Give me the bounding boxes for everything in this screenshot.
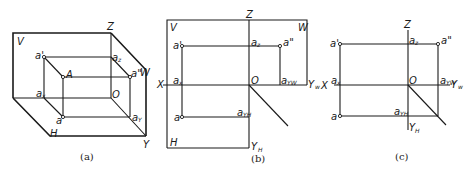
45-degree-line <box>408 85 446 125</box>
caption-c: (c) <box>395 151 409 162</box>
label-A: A <box>65 69 73 80</box>
label-a-z-sub: z <box>117 56 122 63</box>
label-a-dprime: a" <box>283 37 294 48</box>
projection-diagrams: V Z W Y H A O a' a z a" a x a a Y (a) <box>0 0 468 171</box>
point-a-dprime <box>436 42 439 45</box>
label-z: Z <box>245 9 254 20</box>
label-o: O <box>409 75 417 86</box>
caption-b: (b) <box>251 153 265 164</box>
label-a-y-sub: Y <box>138 116 143 123</box>
label-a-x-sub: x <box>41 92 46 99</box>
label-a-yh-sub: YH <box>243 111 252 118</box>
point-a-dprime <box>278 44 281 47</box>
caption-a: (a) <box>80 151 94 162</box>
figure-a: V Z W Y H A O a' a z a" a x a a Y (a) <box>13 21 151 162</box>
label-y-w-sub: w <box>458 83 463 90</box>
label-a: a <box>331 111 337 122</box>
label-a: a <box>56 115 62 126</box>
label-a-dprime: a" <box>441 35 452 46</box>
label-a-yw-sub: YW <box>446 79 457 86</box>
label-z: Z <box>403 19 412 30</box>
label-a-z-sub: z <box>256 41 261 48</box>
label-a-z-sub: z <box>414 39 419 46</box>
label-w: W <box>298 22 309 33</box>
figure-b: V Z W H X O Y w Y H a' a z a" a x a YW a… <box>156 9 320 164</box>
label-a-dprime: a" <box>131 68 142 79</box>
label-a-x-sub: x <box>178 79 183 86</box>
label-a: a <box>174 112 180 123</box>
label-h: H <box>50 128 58 139</box>
label-y-h-sub: H <box>258 146 263 153</box>
label-a-x-sub: x <box>336 79 341 86</box>
v-plane-outline <box>13 33 111 98</box>
label-y-w-sub: w <box>315 83 320 90</box>
label-y-w: Y <box>308 79 315 90</box>
point-a <box>180 115 183 118</box>
label-z: Z <box>106 21 115 32</box>
label-a-yh-sub: YH <box>400 110 409 117</box>
label-v: V <box>170 22 178 33</box>
label-v: V <box>17 36 25 47</box>
label-a-prime: a' <box>173 40 182 51</box>
proj-line <box>44 57 63 77</box>
label-o: O <box>112 89 120 100</box>
label-y-h-sub: H <box>415 127 420 134</box>
point-A <box>61 75 64 78</box>
label-a-yw-sub: YW <box>287 79 298 86</box>
label-y: Y <box>143 139 150 150</box>
45-degree-line <box>249 85 288 126</box>
label-a-prime: a' <box>35 50 44 61</box>
label-o: O <box>251 75 259 86</box>
figure-c: Z X O Y w Y H a' a z a" a x a YW a a YH … <box>320 19 463 162</box>
label-h: H <box>170 137 178 148</box>
label-x: X <box>320 80 329 91</box>
label-x: X <box>156 79 165 90</box>
point-a <box>338 114 341 117</box>
label-a-prime: a' <box>330 38 339 49</box>
label-y-h: Y <box>251 141 258 152</box>
